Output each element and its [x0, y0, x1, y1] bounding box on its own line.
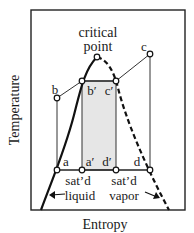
- y-axis-label: Temperature: [7, 75, 22, 146]
- x-axis-label: Entropy: [82, 217, 127, 232]
- point-d-label: d: [134, 154, 141, 169]
- point-dprime-marker: [113, 167, 119, 173]
- sat-liquid-arrowhead-icon: [49, 191, 55, 199]
- point-cprime-marker: [113, 78, 119, 84]
- point-a-label: a: [63, 154, 69, 169]
- critical-point-label-line2: point: [84, 39, 113, 54]
- point-c-marker: [147, 51, 153, 57]
- point-cprime-label: c′: [105, 83, 114, 98]
- critical-point-marker: [94, 54, 100, 60]
- point-aprime-marker: [79, 167, 85, 173]
- point-b-label: b: [52, 82, 59, 97]
- point-dprime-label: d′: [102, 154, 112, 169]
- sat-liquid-label-line1: sat’d: [65, 173, 91, 188]
- point-bprime-label: b′: [87, 83, 97, 98]
- point-aprime-label: a′: [86, 154, 95, 169]
- point-d-marker: [147, 167, 153, 173]
- ts-diagram: critical point b b′ c′ c a a′ d′ d sat’d…: [0, 0, 194, 233]
- sat-vapor-label-line1: sat’d: [111, 173, 137, 188]
- sat-vapor-label-line2: vapor: [109, 188, 139, 203]
- line-cprime-c: [116, 54, 150, 81]
- sat-liquid-label-line2: liquid: [65, 188, 96, 203]
- critical-point-label-line1: critical: [79, 25, 118, 40]
- point-a-marker: [54, 167, 60, 173]
- point-bprime-marker: [79, 78, 85, 84]
- point-c-label: c: [141, 39, 147, 54]
